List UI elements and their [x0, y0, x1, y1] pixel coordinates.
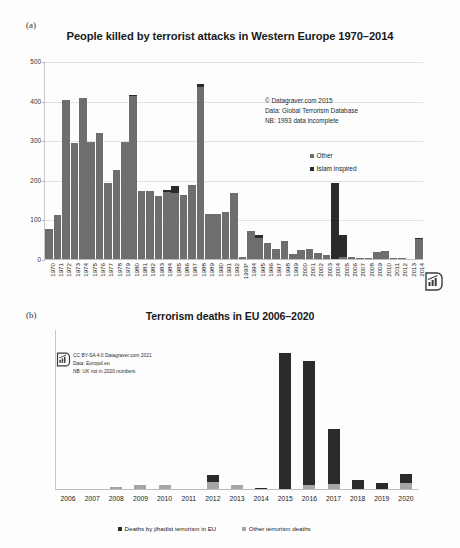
bar-segment [331, 183, 339, 259]
legend-swatch-icon [118, 527, 122, 531]
x-tick-label: 2020 [394, 495, 418, 502]
chart-b-x-axis [56, 489, 418, 490]
bar-column [146, 191, 154, 260]
chart-b-legend-item-jihadist: Deaths by jihadist terrorism in EU [118, 525, 216, 532]
x-tick-label: 2005 [342, 263, 349, 277]
x-tick-label: 2017 [321, 495, 345, 502]
chart-b-legend-label-other: Other terrorism deaths [249, 525, 311, 532]
legend-swatch-icon [310, 154, 314, 158]
chart-b-title: Terrorism deaths in EU 2006–2020 [0, 310, 460, 322]
chart-b-annotation-3: NB: UK not in 2020 numbers [73, 368, 135, 375]
chart-b-annotation-2: Data: Europol.eu [73, 360, 110, 367]
bar-segment [279, 353, 291, 490]
y-tick-mark [42, 181, 45, 182]
x-tick-label: 1990 [216, 263, 223, 277]
chart-b-legend-label-jihadist: Deaths by jihadist terrorism in EU [125, 525, 217, 532]
bar-segment [247, 231, 255, 260]
x-tick-label: 1974 [82, 263, 89, 277]
bar-segment [121, 142, 129, 260]
x-tick-label: 2012 [401, 263, 408, 277]
datagraver-logo-icon [56, 352, 71, 367]
x-tick-label: 2002 [317, 263, 324, 277]
bar-segment [264, 243, 272, 260]
x-tick-label: 1992 [233, 263, 240, 277]
panel-b: (b) Terrorism deaths in EU 2006–2020 025… [0, 296, 460, 548]
bar-column [400, 474, 412, 490]
x-tick-label: 2019 [370, 495, 394, 502]
bar-segment [87, 142, 95, 260]
bar-segment [339, 235, 347, 257]
x-tick-label: 1996 [267, 263, 274, 277]
x-tick-label: 1986 [183, 263, 190, 277]
chart-b-legend-item-other: Other terrorism deaths [242, 525, 310, 532]
x-tick-label: 2007 [359, 263, 366, 277]
x-tick-label: 2015 [273, 495, 297, 502]
bar-column [163, 190, 171, 260]
panel-a: (a) People killed by terrorist attacks i… [0, 0, 460, 300]
bar-segment [54, 215, 62, 260]
bar-segment [400, 474, 412, 483]
x-tick-label: 1991 [225, 263, 232, 277]
bar-segment [303, 361, 315, 484]
x-tick-label: 2008 [367, 263, 374, 277]
x-tick-label: 1985 [174, 263, 181, 277]
chart-b-legend: Deaths by jihadist terrorism in EU Other… [118, 525, 311, 532]
panel-a-letter: (a) [26, 20, 36, 30]
x-tick-label: 2008 [104, 495, 128, 502]
x-tick-label: 2004 [334, 263, 341, 277]
chart-a-x-axis [45, 259, 423, 260]
x-tick-label: 1981 [141, 263, 148, 277]
x-tick-label: 1989 [208, 263, 215, 277]
y-tick-label: 500 [23, 59, 41, 65]
bar-column [104, 183, 112, 260]
x-tick-label: 2010 [153, 495, 177, 502]
y-tick-label: 200 [23, 178, 41, 184]
bar-segment [104, 183, 112, 260]
x-tick-label: 2007 [80, 495, 104, 502]
chart-a-annotation-2: Data: Global Terrorism Database [265, 106, 358, 115]
y-tick-label: 300 [23, 138, 41, 144]
bar-segment [180, 195, 188, 260]
x-tick-label: 1971 [57, 263, 64, 277]
bar-segment [188, 185, 196, 260]
x-tick-label: 2006 [351, 263, 358, 277]
bar-segment [45, 229, 53, 260]
x-tick-label: 1994 [250, 263, 257, 277]
y-tick-mark [42, 260, 45, 261]
bar-column [155, 196, 163, 260]
bar-segment [255, 238, 263, 260]
x-tick-label: 1973 [73, 263, 80, 277]
x-tick-label: 2013 [225, 495, 249, 502]
x-tick-label: 2009 [128, 495, 152, 502]
bar-column [71, 143, 79, 260]
bar-segment [129, 96, 137, 260]
chart-a-plot-area [45, 62, 423, 260]
x-tick-label: 1993* [241, 263, 248, 279]
bar-column [62, 100, 70, 260]
x-tick-label: 1982 [149, 263, 156, 277]
bar-segment [281, 241, 289, 260]
bar-column [197, 84, 205, 260]
x-tick-label: 2018 [346, 495, 370, 502]
chart-a-legend-label-islam-inspired: Islam inspired [317, 165, 357, 172]
bar-segment [79, 98, 87, 260]
x-tick-label: 2014 [249, 495, 273, 502]
x-tick-label: 2003 [325, 263, 332, 277]
x-tick-label: 2011 [393, 263, 400, 276]
x-tick-label: 1980 [132, 263, 139, 277]
chart-a-annotation-3: NB: 1993 data incomplete [265, 116, 339, 125]
bar-segment [171, 186, 179, 193]
chart-a-annotation-1: © Datagraver.com 2015 [265, 96, 333, 105]
x-tick-label: 1979 [124, 263, 131, 277]
bar-column [113, 170, 121, 260]
x-tick-label: 1984 [166, 263, 173, 277]
bar-column [96, 133, 104, 261]
bar-column [222, 212, 230, 260]
chart-a-legend-item-islam-inspired: Islam inspired [310, 165, 357, 172]
x-tick-label: 1983 [157, 263, 164, 277]
x-tick-label: 2011 [177, 495, 201, 502]
x-tick-label: 2009 [376, 263, 383, 277]
x-tick-label: 2010 [384, 263, 391, 277]
x-tick-label: 1977 [107, 263, 114, 277]
bar-column [279, 353, 291, 490]
